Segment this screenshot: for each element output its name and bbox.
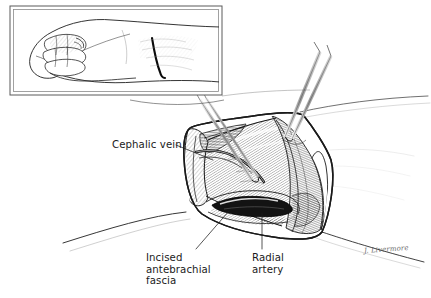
orientation-inset [10,6,310,105]
label-cephalic-vein: Cephalic vein [112,139,182,151]
label-incised-antebrachial-fascia: Incised antebrachial fascia [146,252,211,287]
surgical-illustration-figure: Cephalic vein Incised antebrachial fasci… [0,0,431,298]
label-radial-artery: Radial artery [252,252,284,275]
